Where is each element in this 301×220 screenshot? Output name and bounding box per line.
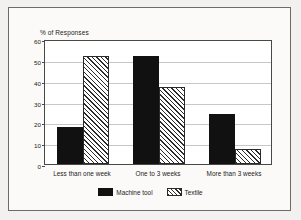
y-tick-label: 60 bbox=[34, 38, 41, 45]
bars-layer bbox=[45, 41, 271, 164]
bar-chart: % of Responses 0102030405060 Less than o… bbox=[0, 0, 301, 220]
plot-area: 0102030405060 bbox=[44, 40, 272, 165]
legend-item-textile: Textile bbox=[167, 188, 203, 196]
bar-textile bbox=[235, 149, 261, 164]
figure-container: % of Responses 0102030405060 Less than o… bbox=[0, 0, 301, 220]
y-tick-label: 20 bbox=[34, 121, 41, 128]
y-tick-label: 50 bbox=[34, 58, 41, 65]
x-tick-label: More than 3 weeks bbox=[207, 170, 262, 177]
bar-machine-tool bbox=[57, 127, 83, 165]
bar-textile bbox=[83, 56, 109, 164]
y-axis-title: % of Responses bbox=[40, 29, 89, 36]
y-tick-label: 40 bbox=[34, 79, 41, 86]
hatched-swatch-icon bbox=[167, 188, 182, 196]
legend-label-machine-tool: Machine tool bbox=[116, 189, 152, 196]
y-tick-label: 10 bbox=[34, 142, 41, 149]
y-tick-label: 0 bbox=[38, 163, 41, 170]
bar-machine-tool bbox=[209, 114, 235, 164]
solid-swatch-icon bbox=[98, 188, 113, 196]
y-tick-label: 30 bbox=[34, 100, 41, 107]
bar-textile bbox=[159, 87, 185, 164]
y-tick-mark bbox=[42, 166, 45, 167]
legend-label-textile: Textile bbox=[185, 189, 203, 196]
legend-item-machine-tool: Machine tool bbox=[98, 188, 152, 196]
bar-machine-tool bbox=[133, 56, 159, 164]
chart-legend: Machine tool Textile bbox=[0, 188, 301, 196]
x-tick-label: One to 3 weeks bbox=[135, 170, 180, 177]
x-tick-label: Less than one week bbox=[53, 170, 111, 177]
